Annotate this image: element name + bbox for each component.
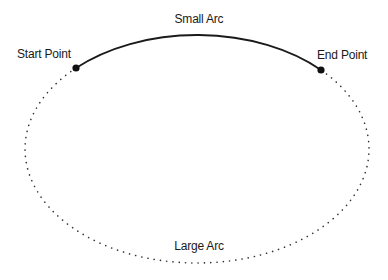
- end-point-label: End Point: [317, 48, 368, 62]
- large-arc-label: Large Arc: [174, 239, 224, 253]
- end-point-marker: [317, 66, 324, 73]
- start-point-marker: [72, 64, 79, 71]
- start-point-label: Start Point: [17, 47, 72, 61]
- small-arc-label: Small Arc: [175, 12, 224, 26]
- arc-diagram: Small Arc Start Point End Point Large Ar…: [0, 0, 388, 280]
- small-arc: [76, 35, 321, 70]
- large-arc: [25, 68, 369, 263]
